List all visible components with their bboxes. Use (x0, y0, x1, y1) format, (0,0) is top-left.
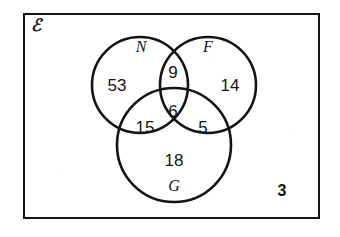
region-value-N-and-F: 9 (168, 64, 177, 81)
universal-set-symbol: ℰ (31, 17, 41, 34)
set-label-N: N (136, 39, 147, 55)
set-label-G: G (168, 178, 180, 194)
region-value-N-F-G: 6 (168, 103, 177, 120)
region-value-G-only: 18 (165, 152, 184, 169)
region-value-outside: 3 (278, 183, 287, 199)
region-value-N-and-G: 15 (136, 119, 155, 136)
venn-diagram-figure: ℰ N F G 53 14 18 9 15 5 6 3 (0, 0, 340, 237)
region-value-F-only: 14 (221, 77, 240, 94)
region-value-N-only: 53 (108, 77, 127, 94)
set-label-F: F (203, 39, 213, 55)
region-value-F-and-G: 5 (198, 119, 207, 136)
